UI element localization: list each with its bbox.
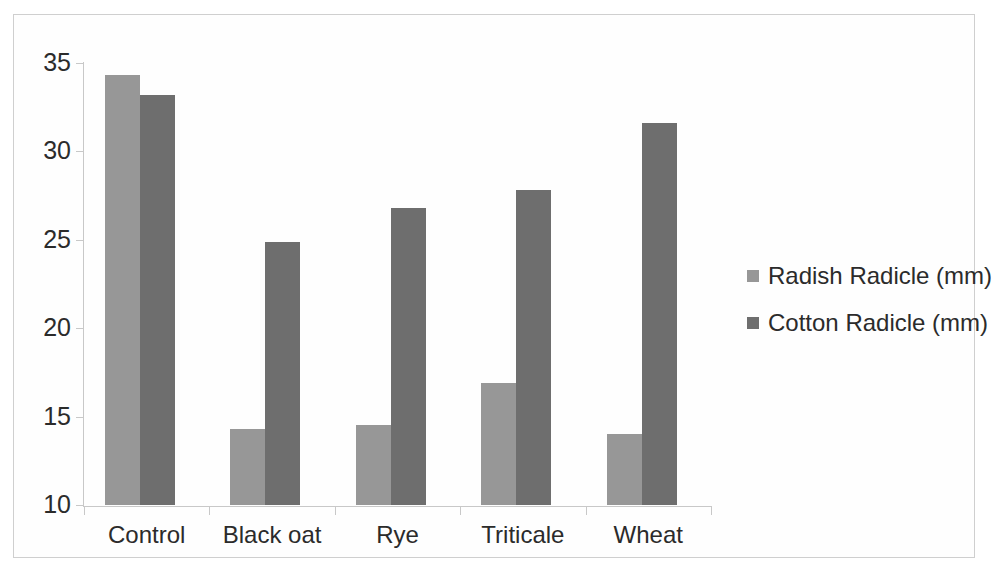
legend-label: Radish Radicle (mm) [768,264,992,288]
x-axis-tick-mark [84,506,85,515]
bar-group [460,63,585,505]
bar-cotton[interactable] [140,95,175,505]
y-axis-tick-label: 30 [23,138,71,163]
y-axis-tick-label: 25 [23,227,71,252]
bar-cotton[interactable] [265,242,300,505]
x-axis-category-label: Wheat [586,523,711,547]
legend-label: Cotton Radicle (mm) [768,311,988,335]
x-axis-tick-mark [586,506,587,515]
x-axis-line [83,506,712,507]
bar-group [335,63,460,505]
x-axis-category-label: Rye [335,523,460,547]
plot-area [84,63,711,505]
x-axis-category-label: Black oat [209,523,334,547]
y-axis-tick-mark [76,151,84,152]
bar-radish[interactable] [481,383,516,505]
x-axis-tick-mark [460,506,461,515]
bar-radish[interactable] [607,434,642,505]
bar-group [84,63,209,505]
y-axis-tick-label: 35 [23,50,71,75]
y-axis-tick-label: 20 [23,315,71,340]
bar-radish[interactable] [356,425,391,505]
chart-legend: Radish Radicle (mm)Cotton Radicle (mm) [747,263,992,357]
x-axis-category-label: Control [84,523,209,547]
bar-group [586,63,711,505]
x-axis-tick-mark [711,506,712,515]
y-axis-tick-mark [76,328,84,329]
bar-group [209,63,334,505]
legend-item[interactable]: Radish Radicle (mm) [747,263,992,289]
y-axis-tick-mark [76,240,84,241]
bar-cotton[interactable] [391,208,426,505]
y-axis-tick-mark [76,63,84,64]
y-axis-tick-mark [76,505,84,506]
bar-radish[interactable] [230,429,265,505]
x-axis-tick-mark [335,506,336,515]
bar-cotton[interactable] [642,123,677,505]
x-axis-tick-mark [209,506,210,515]
legend-swatch-icon [747,270,759,282]
chart-frame: 353025201510 ControlBlack oatRyeTritical… [13,14,975,558]
x-axis-category-label: Triticale [460,523,585,547]
y-axis-tick-labels: 353025201510 [19,15,71,579]
bar-cotton[interactable] [516,190,551,505]
y-axis-tick-mark [76,417,84,418]
y-axis-tick-label: 10 [23,492,71,517]
legend-swatch-icon [747,317,759,329]
legend-item[interactable]: Cotton Radicle (mm) [747,310,992,336]
bar-radish[interactable] [105,75,140,505]
y-axis-tick-label: 15 [23,404,71,429]
